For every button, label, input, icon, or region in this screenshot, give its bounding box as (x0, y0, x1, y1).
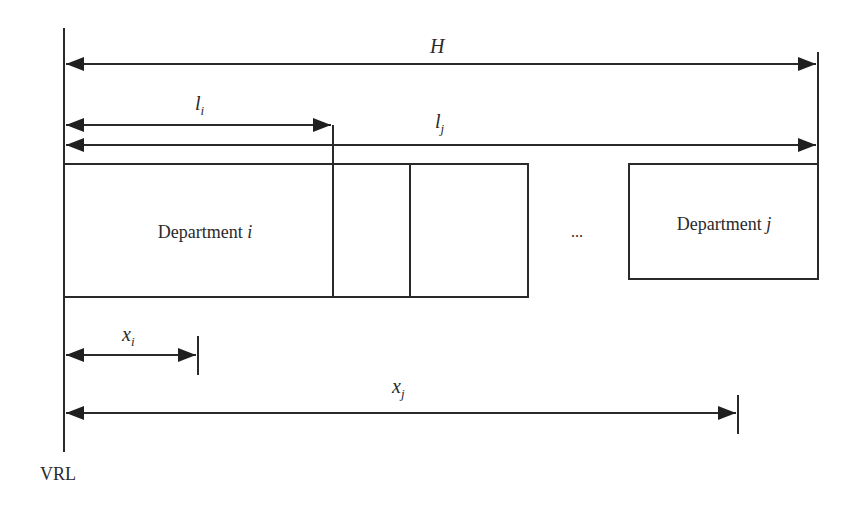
ellipsis: ... (571, 223, 583, 240)
department-row-block (64, 164, 528, 297)
dimension-label-l-i: li (195, 92, 205, 118)
vrl-label: VRL (40, 464, 76, 484)
facility-layout-diagram: VRL H li lj Department i ... Department … (0, 0, 864, 506)
department-j-label: Department j (677, 214, 771, 234)
dimension-label-l-j: lj (435, 110, 445, 136)
dimension-label-x-i: xi (121, 323, 135, 349)
department-i-label: Department i (158, 222, 252, 242)
dimension-label-H: H (429, 35, 446, 57)
dimension-label-x-j: xj (391, 375, 405, 401)
diagram-svg: VRL H li lj Department i ... Department … (0, 0, 864, 506)
